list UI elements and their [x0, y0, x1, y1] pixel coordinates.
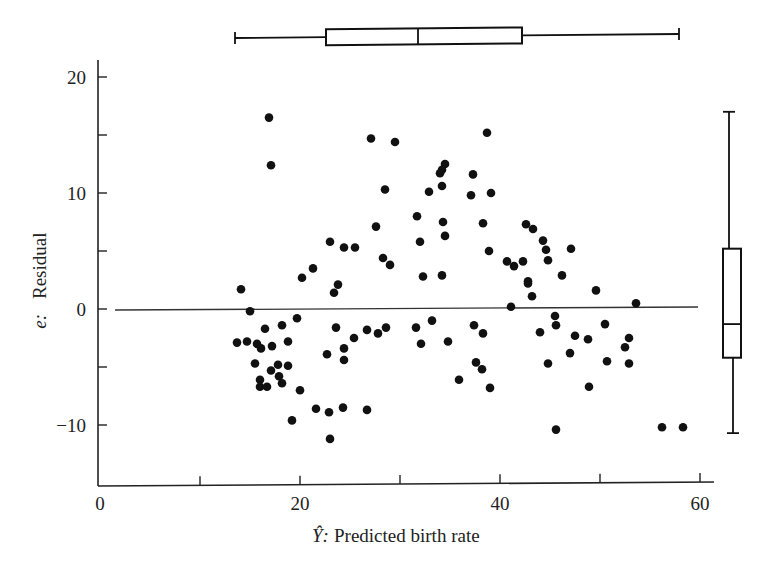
data-point [441, 232, 450, 241]
x-axis-label: Predicted birth rate [334, 525, 480, 546]
data-point [386, 261, 395, 270]
data-point [558, 271, 567, 280]
data-point [326, 237, 335, 246]
data-point [592, 286, 601, 295]
x-boxplot-box [326, 27, 522, 45]
data-point [233, 338, 242, 347]
data-point [551, 312, 560, 321]
data-point [632, 299, 641, 308]
data-point [425, 188, 434, 197]
x-tick-label: 0 [95, 493, 105, 514]
data-point [381, 185, 390, 194]
data-point [486, 384, 495, 393]
data-point [339, 403, 348, 412]
x-tick-label: 40 [491, 493, 510, 514]
data-point [522, 220, 531, 229]
data-point [326, 435, 335, 444]
data-point [278, 379, 287, 388]
data-point [524, 279, 533, 288]
data-point [510, 262, 519, 271]
data-point [625, 334, 634, 343]
data-point [625, 359, 634, 368]
data-point [268, 342, 277, 351]
data-point [237, 285, 246, 294]
data-point [469, 170, 478, 179]
data-point [274, 360, 283, 369]
data-point [467, 191, 476, 200]
y-tick-label: −10 [56, 415, 86, 436]
data-point [246, 307, 255, 316]
y-axis-ticks: −1001020 [56, 67, 107, 436]
data-point [528, 292, 537, 301]
data-point [503, 257, 512, 266]
data-point [379, 254, 388, 263]
data-point [267, 161, 276, 170]
y-boxplot-box [723, 249, 741, 358]
data-point [278, 321, 287, 330]
data-point [679, 423, 688, 432]
data-point [552, 425, 561, 434]
data-point [571, 331, 580, 340]
data-point [566, 349, 575, 358]
data-point [413, 212, 422, 221]
data-point [455, 376, 464, 385]
data-point [257, 344, 266, 353]
data-point [350, 334, 359, 343]
data-point [309, 264, 318, 273]
x-axis-ticks: 0204060 [95, 473, 709, 514]
data-point [567, 244, 576, 253]
data-point [340, 356, 349, 365]
data-point [439, 218, 448, 227]
data-point [428, 316, 437, 325]
data-point [478, 365, 487, 374]
axes: −1001020 0204060 [56, 60, 714, 514]
data-point [261, 324, 270, 333]
x-boxplot [235, 27, 679, 45]
y-tick-label: 20 [67, 67, 86, 88]
x-boxplot-whisker-right [522, 34, 679, 35]
data-point [323, 350, 332, 359]
data-point [416, 237, 425, 246]
y-axis-symbol: e: [29, 314, 50, 329]
data-point [332, 323, 341, 332]
x-axis-title: Ŷ: Predicted birth rate [312, 525, 480, 546]
data-point [412, 323, 421, 332]
data-point [263, 382, 272, 391]
data-point [584, 335, 593, 344]
data-point [544, 256, 553, 265]
data-point [438, 271, 447, 280]
data-point [542, 246, 551, 255]
data-point [312, 405, 321, 414]
data-point [374, 329, 383, 338]
data-point [382, 323, 391, 332]
data-point [444, 337, 453, 346]
data-point [417, 340, 426, 349]
data-point [536, 328, 545, 337]
data-point [330, 289, 339, 298]
data-point [298, 273, 307, 282]
data-point [438, 182, 447, 191]
y-axis-title: e: Residual [29, 233, 50, 329]
x-tick-label: 60 [691, 493, 710, 514]
data-point [479, 329, 488, 338]
data-point [293, 314, 302, 323]
zero-reference-line [115, 307, 698, 310]
data-point [658, 423, 667, 432]
y-tick-label: 10 [67, 183, 86, 204]
data-point [284, 337, 293, 346]
data-point [544, 359, 553, 368]
x-boxplot-whisker-left [235, 37, 326, 38]
data-point [472, 358, 481, 367]
data-point [363, 326, 372, 335]
y-boxplot [723, 112, 741, 433]
data-point [419, 272, 428, 281]
data-point [340, 344, 349, 353]
data-point [529, 225, 538, 234]
x-axis-symbol: Ŷ: [312, 525, 329, 546]
data-point [552, 321, 561, 330]
data-point [340, 243, 349, 252]
data-point [601, 320, 610, 329]
data-point [296, 386, 305, 395]
data-point [243, 337, 252, 346]
data-point [621, 343, 630, 352]
